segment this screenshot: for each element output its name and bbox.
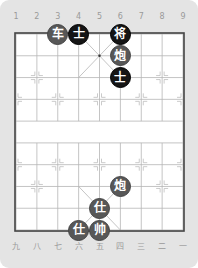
file-label-bottom: 七 <box>51 242 65 252</box>
file-label-top: 2 <box>30 12 44 22</box>
board-panel: 123456789 九八七六五四三二一 车士将炮士炮仕仕帅 <box>0 0 198 268</box>
file-label-bottom: 六 <box>72 242 86 252</box>
file-label-top: 6 <box>113 12 127 22</box>
file-label-top: 4 <box>72 12 86 22</box>
red-advisor-piece[interactable]: 仕 <box>68 220 89 241</box>
file-label-top: 7 <box>134 12 148 22</box>
file-label-top: 5 <box>93 12 107 22</box>
file-label-bottom: 四 <box>113 242 127 252</box>
red-chariot-piece[interactable]: 车 <box>47 24 68 45</box>
file-label-bottom: 三 <box>134 242 148 252</box>
file-label-bottom: 九 <box>9 242 23 252</box>
file-label-top: 9 <box>176 12 190 22</box>
file-label-top: 1 <box>9 12 23 22</box>
file-label-bottom: 五 <box>93 242 107 252</box>
file-label-bottom: 八 <box>30 242 44 252</box>
black-advisor-piece[interactable]: 士 <box>68 24 89 45</box>
file-label-bottom: 二 <box>155 242 169 252</box>
red-advisor-piece[interactable]: 仕 <box>89 198 110 219</box>
file-label-top: 3 <box>51 12 65 22</box>
black-advisor-piece[interactable]: 士 <box>110 67 131 88</box>
black-general-piece[interactable]: 将 <box>110 24 131 45</box>
file-label-top: 8 <box>155 12 169 22</box>
red-cannon-piece[interactable]: 炮 <box>110 176 131 197</box>
red-king-piece[interactable]: 帅 <box>89 220 110 241</box>
file-label-bottom: 一 <box>176 242 190 252</box>
red-cannon-piece[interactable]: 炮 <box>110 45 131 66</box>
